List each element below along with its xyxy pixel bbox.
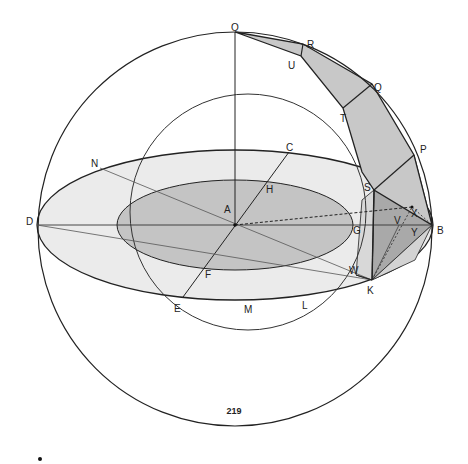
label-E: E: [174, 303, 181, 314]
label-X: X: [411, 208, 418, 219]
label-W: W: [349, 265, 359, 276]
label-U: U: [288, 60, 295, 71]
page-number: 219: [0, 406, 468, 416]
label-N: N: [91, 158, 98, 169]
label-O: O: [231, 22, 239, 33]
sphere-geometry-diagram: O R U Q T P S N C H D A G B V X Y W K F …: [0, 0, 468, 464]
center-point-A: [233, 223, 237, 227]
label-M: M: [244, 304, 252, 315]
label-Y: Y: [411, 227, 418, 238]
label-B: B: [437, 225, 444, 236]
label-R: R: [307, 39, 314, 50]
label-H: H: [266, 184, 273, 195]
label-G: G: [353, 225, 361, 236]
label-K: K: [367, 285, 374, 296]
label-T: T: [340, 113, 346, 124]
label-P: P: [420, 144, 427, 155]
label-C: C: [286, 142, 293, 153]
label-V: V: [394, 215, 401, 226]
label-D: D: [26, 216, 33, 227]
bullet-dot: [38, 457, 42, 461]
label-Q: Q: [374, 82, 382, 93]
label-A: A: [224, 204, 231, 215]
label-S: S: [364, 182, 371, 193]
label-F: F: [205, 269, 211, 280]
label-L: L: [302, 300, 308, 311]
